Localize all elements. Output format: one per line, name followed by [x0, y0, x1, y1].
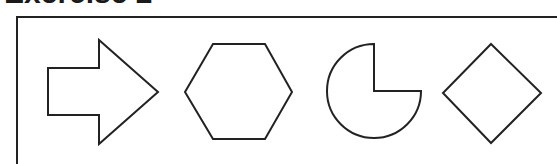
arrow-shape [48, 40, 158, 144]
pie-shape [327, 44, 421, 138]
hexagon-shape [185, 44, 292, 139]
diamond-shape [443, 44, 541, 143]
shapes-row [0, 0, 557, 164]
